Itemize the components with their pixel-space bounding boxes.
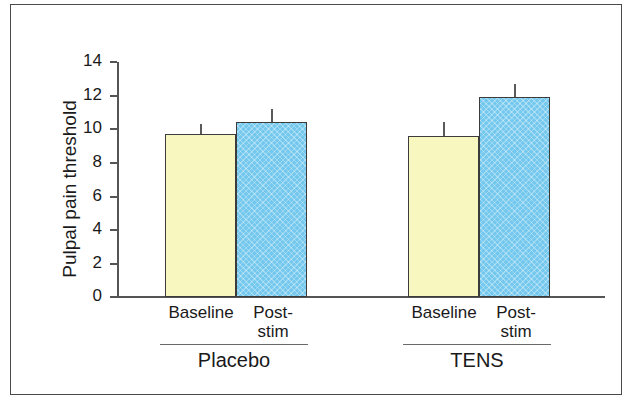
y-tick-14: [110, 61, 117, 63]
bar-placebo-poststim: [236, 122, 307, 297]
y-tick-label-14: 14: [62, 52, 102, 69]
group-label-tens: TENS: [407, 349, 547, 372]
x-label-placebo-poststim-line2: stim: [238, 322, 308, 341]
y-tick-label-6: 6: [62, 187, 102, 204]
y-tick-label-0: 0: [62, 287, 102, 304]
y-tick-label-2: 2: [62, 254, 102, 271]
y-tick-label-12: 12: [62, 86, 102, 103]
y-tick-label-10: 10: [62, 119, 102, 136]
group-rule-placebo: [160, 344, 308, 345]
y-tick-label-8: 8: [62, 153, 102, 170]
x-label-tens-baseline: Baseline: [399, 303, 489, 322]
errorbar-placebo-baseline: [200, 124, 202, 134]
y-tick-10: [110, 128, 117, 130]
x-label-tens-poststim: Post- stim: [481, 303, 551, 341]
errorbar-tens-poststim: [514, 84, 516, 97]
x-label-placebo-poststim-line1: Post-: [238, 303, 308, 322]
bar-placebo-baseline: [165, 134, 236, 297]
errorbar-placebo-poststim: [271, 109, 273, 122]
y-axis-line: [117, 62, 119, 298]
y-tick-2: [110, 263, 117, 265]
x-label-tens-poststim-line1: Post-: [481, 303, 551, 322]
errorbar-tens-baseline: [443, 122, 445, 135]
bar-tens-baseline: [408, 136, 479, 297]
y-tick-0: [110, 296, 117, 298]
x-label-placebo-poststim: Post- stim: [238, 303, 308, 341]
y-tick-12: [110, 95, 117, 97]
bar-chart: Pulpal pain threshold 14 12 10 8 6 4 2 0: [0, 0, 635, 411]
x-label-tens-poststim-line2: stim: [481, 322, 551, 341]
y-tick-8: [110, 162, 117, 164]
group-label-placebo: Placebo: [164, 349, 304, 372]
figure: Pulpal pain threshold 14 12 10 8 6 4 2 0: [0, 0, 635, 411]
bar-tens-poststim: [479, 97, 550, 297]
y-tick-4: [110, 229, 117, 231]
group-rule-tens: [403, 344, 551, 345]
x-label-placebo-baseline: Baseline: [156, 303, 246, 322]
y-tick-6: [110, 196, 117, 198]
y-tick-label-4: 4: [62, 220, 102, 237]
